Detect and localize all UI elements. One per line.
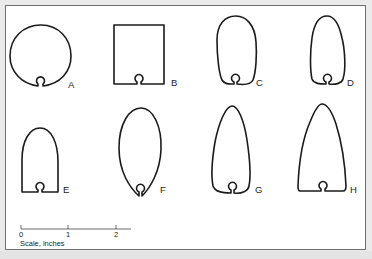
shape-label-g: G	[255, 184, 262, 195]
shape-label-c: C	[256, 77, 263, 88]
shape-label-e: E	[63, 184, 69, 195]
shape-label-d: D	[347, 77, 354, 88]
shape-g: G	[212, 106, 262, 195]
scale-tick-1: 1	[66, 230, 70, 239]
shape-h: H	[298, 104, 357, 195]
shape-label-a: A	[68, 79, 75, 90]
scale-tick-2: 2	[114, 230, 118, 239]
shape-label-b: B	[171, 77, 177, 88]
shape-b: B	[114, 25, 177, 88]
shape-d: D	[311, 16, 355, 88]
scale-caption: Scale, inches	[20, 239, 65, 248]
shape-e: E	[22, 128, 69, 195]
scale-tick-0: 0	[19, 230, 23, 239]
bottom-strip	[0, 251, 372, 259]
shape-a: A	[10, 25, 75, 90]
shape-label-f: F	[160, 184, 166, 195]
shape-c: C	[217, 16, 263, 88]
shape-label-h: H	[350, 184, 357, 195]
scale-bar: 0 1 2 Scale, inches	[19, 225, 131, 248]
loop-shapes-diagram: A B C D E F G H 0 1 2	[0, 0, 372, 259]
shape-f: F	[119, 108, 166, 196]
